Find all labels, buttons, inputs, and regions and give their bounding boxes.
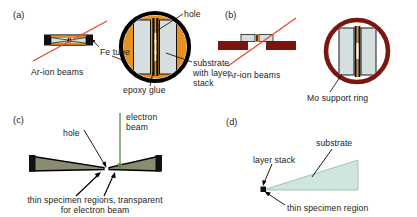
hole-white-a	[155, 40, 157, 54]
panel-c-thin-regions-label-line2: for electron beam	[10, 205, 180, 215]
substrate-slab-left-a	[134, 20, 151, 74]
panel-a-hole-label: hole	[184, 9, 201, 19]
panel-d-id: (d)	[226, 117, 238, 127]
wedge-right-end-block	[156, 155, 163, 172]
layer-stack-b	[256, 35, 257, 42]
leader-thin-right-head	[111, 172, 116, 178]
panel-b-id: (b)	[225, 10, 237, 20]
panel-c-electron-beam-label-line2: beam	[126, 122, 148, 132]
specimen-wedge-right	[109, 156, 160, 171]
panel-a-fe-tube-label: Fe tube	[100, 47, 130, 57]
panel-c-hole-label: hole	[63, 128, 80, 138]
layer-stack-bar-left-a	[152, 18, 154, 76]
layer-stack-block-d	[261, 187, 267, 193]
panel-a-substrate-label-line3: stack	[193, 78, 214, 88]
panel-a-substrate-label-line1: substrate	[193, 58, 229, 68]
fe-tube-left-block	[44, 35, 51, 46]
substrate-left-wedge	[51, 38, 68, 44]
plan-inner-content-b	[339, 26, 376, 77]
specimen-wedge-left	[30, 156, 104, 171]
wedge-left-end-block	[29, 155, 36, 172]
panel-c-id: (c)	[13, 115, 24, 125]
leader-thin-left	[76, 174, 99, 196]
figure-root: (a) Ar-ion beams Fe tube hole epoxy glue…	[0, 0, 417, 217]
panel-a-cross-section	[33, 21, 107, 61]
panel-b-plan-view	[326, 20, 388, 92]
leader-layer-stack-d-head	[262, 180, 266, 186]
panel-d-substrate-label: substrate	[316, 138, 352, 148]
substrate-slab-left-plan-b	[339, 28, 354, 75]
substrate-slab-right-plan-b	[361, 28, 376, 75]
panel-b-cross-section	[218, 18, 296, 66]
panel-a-epoxy-glue-label: epoxy glue	[123, 85, 166, 95]
panel-a-substrate-label-line2: with layer	[193, 68, 230, 78]
substrate-slab-right-a	[160, 20, 177, 74]
panel-c-thin-regions-label-line1: thin specimen regions, transparent	[10, 195, 180, 205]
mo-block-right-b	[266, 41, 296, 50]
schematic-drawing	[0, 0, 417, 217]
leader-hole-c	[84, 130, 106, 166]
panel-d-thin-region-label: thin specimen region	[287, 203, 368, 213]
panel-d-layer-stack-label: layer stack	[253, 155, 295, 165]
mo-block-left-b	[218, 41, 248, 50]
panel-a-id: (a)	[13, 10, 25, 20]
layer-stack-bar-right-a	[156, 18, 158, 76]
substrate-slab-left-b	[241, 35, 255, 42]
panel-b-ar-beams-label: Ar-ion beams	[228, 70, 280, 80]
panel-a-ar-beams-label: Ar-ion beams	[31, 67, 83, 77]
panel-c-electron-beam-label-line1: electron	[126, 112, 157, 122]
hole-white-b	[356, 43, 358, 59]
panel-b-mo-ring-label: Mo support ring	[307, 93, 368, 103]
